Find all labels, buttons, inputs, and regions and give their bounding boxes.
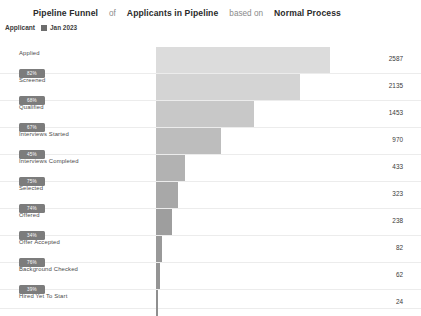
funnel-row[interactable]: Applied258782% — [0, 47, 421, 74]
date-range-filter[interactable]: Jan 2023 — [41, 24, 77, 31]
date-range-label: Jan 2023 — [50, 24, 77, 31]
funnel-row-value: 62 — [396, 271, 403, 278]
calendar-icon — [41, 25, 47, 31]
funnel-row[interactable]: Offered23834% — [0, 209, 421, 236]
funnel-row-value: 1453 — [389, 109, 403, 116]
funnel-row-value: 2135 — [389, 82, 403, 89]
funnel-row-value: 2587 — [389, 55, 403, 62]
funnel-bar[interactable] — [156, 101, 254, 127]
funnel-row[interactable]: Selected32374% — [0, 182, 421, 209]
chart-header: Pipeline Funnel of Applicants in Pipelin… — [0, 0, 421, 18]
funnel-row[interactable]: Interviews Started97045% — [0, 128, 421, 155]
funnel-bar[interactable] — [156, 182, 178, 208]
page-title: Pipeline Funnel — [33, 8, 98, 18]
funnel-row-label: Applied — [19, 50, 40, 56]
funnel-row-value: 238 — [392, 217, 403, 224]
funnel-row[interactable]: Interviews Completed43375% — [0, 155, 421, 182]
doctype-label: Applicant — [5, 24, 35, 31]
conversion-rate-badge: 67% — [19, 123, 45, 132]
funnel-bar[interactable] — [156, 74, 300, 100]
funnel-chart: Applied258782%Screened213568%Qualified14… — [0, 47, 421, 316]
conversion-rate-badge: 74% — [19, 204, 45, 213]
funnel-bar[interactable] — [156, 155, 185, 181]
funnel-row[interactable]: Background Checked6239% — [0, 263, 421, 290]
conversion-rate-badge: 82% — [19, 69, 45, 78]
funnel-bar[interactable] — [156, 236, 162, 262]
funnel-row[interactable]: Offer Accepted8276% — [0, 236, 421, 263]
funnel-row-value: 970 — [392, 136, 403, 143]
funnel-row-value: 433 — [392, 163, 403, 170]
funnel-row-value: 323 — [392, 190, 403, 197]
funnel-bar[interactable] — [156, 209, 172, 235]
of-label: of — [109, 9, 116, 18]
funnel-bar[interactable] — [156, 290, 158, 316]
chart-subheader: Applicant Jan 2023 — [0, 18, 421, 31]
funnel-bar[interactable] — [156, 128, 221, 154]
based-on-label: based on — [229, 9, 263, 18]
conversion-rate-badge: 45% — [19, 150, 45, 159]
funnel-row[interactable]: Qualified145367% — [0, 101, 421, 128]
funnel-bar[interactable] — [156, 47, 330, 73]
conversion-rate-badge: 68% — [19, 96, 45, 105]
funnel-row-value: 24 — [396, 298, 403, 305]
dataset-name[interactable]: Applicants in Pipeline — [127, 8, 219, 18]
conversion-rate-badge: 39% — [19, 285, 45, 294]
funnel-row[interactable]: Hired Yet To Start24 — [0, 290, 421, 316]
funnel-row-value: 82 — [396, 244, 403, 251]
funnel-bar[interactable] — [156, 263, 160, 289]
conversion-rate-badge: 75% — [19, 177, 45, 186]
conversion-rate-badge: 76% — [19, 258, 45, 267]
process-name[interactable]: Normal Process — [274, 8, 341, 18]
funnel-row[interactable]: Screened213568% — [0, 74, 421, 101]
conversion-rate-badge: 34% — [19, 231, 45, 240]
